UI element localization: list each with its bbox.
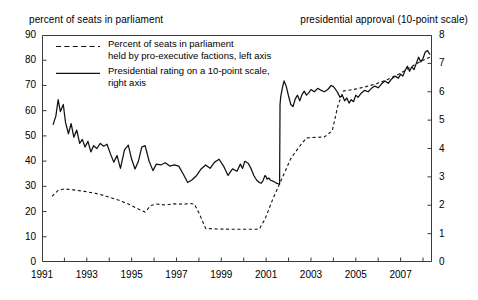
- legend-solid-label-line1: Presidential rating on a 10-point scale,: [108, 65, 306, 77]
- x-tick-label: 1993: [64, 269, 110, 280]
- x-tick-label: 2003: [288, 269, 334, 280]
- left-tick-label: 50: [6, 130, 36, 141]
- right-tick-label: 8: [439, 29, 469, 40]
- dashed-line-swatch: [56, 45, 100, 47]
- chart-figure: percent of seats in parliament president…: [0, 0, 478, 300]
- right-tick-label: 4: [439, 143, 469, 154]
- left-tick-label: 80: [6, 54, 36, 65]
- legend-row-dashed: Percent of seats in parliament held by p…: [56, 38, 306, 61]
- right-tick-label: 6: [439, 86, 469, 97]
- x-tick-label: 2001: [243, 269, 289, 280]
- x-tick-label: 1995: [109, 269, 155, 280]
- right-tick-label: 5: [439, 114, 469, 125]
- x-tick-label: 1997: [153, 269, 199, 280]
- legend-solid-label-line2: right axis: [108, 77, 306, 89]
- x-tick-label: 1991: [19, 269, 65, 280]
- left-tick-label: 0: [6, 256, 36, 267]
- right-axis-caption: presidential approval (10-point scale): [300, 14, 468, 25]
- right-tick-label: 0: [439, 256, 469, 267]
- left-tick-label: 30: [6, 180, 36, 191]
- x-tick-label: 1999: [198, 269, 244, 280]
- legend-dashed-label-line2: held by pro-executive factions, left axi…: [108, 50, 306, 62]
- x-tick-label: 2007: [378, 269, 424, 280]
- legend-row-solid: Presidential rating on a 10-point scale,…: [56, 65, 306, 88]
- left-tick-label: 70: [6, 79, 36, 90]
- left-tick-label: 40: [6, 155, 36, 166]
- left-axis-caption: percent of seats in parliament: [29, 14, 163, 25]
- left-tick-label: 90: [6, 29, 36, 40]
- right-tick-label: 7: [439, 57, 469, 68]
- left-tick-label: 10: [6, 231, 36, 242]
- solid-line-swatch: [56, 72, 100, 74]
- left-tick-label: 60: [6, 105, 36, 116]
- x-tick-label: 2005: [333, 269, 379, 280]
- right-tick-label: 3: [439, 171, 469, 182]
- left-tick-label: 20: [6, 206, 36, 217]
- chart-legend: Percent of seats in parliament held by p…: [56, 38, 306, 90]
- legend-dashed-label-line1: Percent of seats in parliament: [108, 38, 306, 50]
- right-tick-label: 1: [439, 228, 469, 239]
- right-tick-label: 2: [439, 199, 469, 210]
